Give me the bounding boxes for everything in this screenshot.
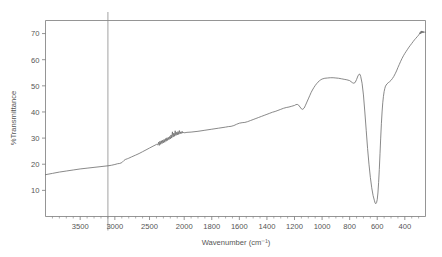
x-axis-title: Wavenumber (cm⁻¹) — [202, 238, 271, 247]
y-tick-label: 10 — [31, 186, 39, 195]
x-tick-label: 400 — [398, 222, 411, 231]
x-tick-label: 1000 — [314, 222, 331, 231]
x-tick-label: 2000 — [176, 222, 193, 231]
x-tick-label: 600 — [371, 222, 384, 231]
x-tick-label: 3500 — [72, 222, 89, 231]
spectrum-plot: 3500300025002000180016001400120010008006… — [0, 0, 442, 257]
y-axis-title: %Transmittance — [9, 91, 18, 146]
x-tick-label: 1800 — [203, 222, 220, 231]
x-tick-label: 1200 — [286, 222, 303, 231]
y-tick-label: 60 — [31, 56, 39, 65]
y-tick-label: 50 — [31, 82, 39, 91]
x-tick-label: 3000 — [106, 222, 123, 231]
ir-spectrum-chart: 3500300025002000180016001400120010008006… — [0, 0, 442, 257]
y-tick-label: 30 — [31, 134, 39, 143]
x-tick-label: 1600 — [231, 222, 248, 231]
y-tick-label: 40 — [31, 108, 39, 117]
y-tick-label: 70 — [31, 29, 39, 38]
x-tick-label: 800 — [343, 222, 356, 231]
y-tick-label: 20 — [31, 160, 39, 169]
x-tick-label: 1400 — [258, 222, 275, 231]
x-tick-label: 2500 — [141, 222, 158, 231]
